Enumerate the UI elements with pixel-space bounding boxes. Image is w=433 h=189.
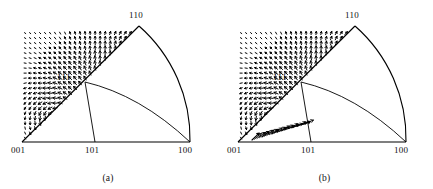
panel-b-label-101: 101: [301, 145, 315, 155]
panel-a-internal-lines: [85, 82, 190, 142]
panel-b-plot: [216, 0, 433, 189]
panel-a-label-110: 110: [129, 10, 143, 20]
panel-a-caption: (a): [0, 173, 216, 183]
panel-a-label-001: 001: [11, 145, 25, 155]
figure-container: 110 111 001 101 100 (a): [0, 0, 433, 189]
panel-b-label-111: 111: [273, 72, 287, 82]
panel-a-label-111: 111: [57, 72, 71, 82]
panel-a-arrow-field: [24, 32, 131, 139]
panel-b-label-100: 100: [394, 145, 408, 155]
panel-a-plot: [0, 0, 216, 189]
panel-b-long-arrows: [252, 120, 313, 140]
panel-a-label-101: 101: [85, 145, 99, 155]
panel-b-arrow-field: [240, 32, 347, 139]
panel-a-label-100: 100: [178, 145, 192, 155]
panel-b-label-001: 001: [227, 145, 241, 155]
panel-a: 110 111 001 101 100 (a): [0, 0, 216, 189]
panel-b: 110 111 001 101 100 (b): [216, 0, 433, 189]
panel-b-caption: (b): [216, 173, 433, 183]
panel-b-label-110: 110: [345, 10, 359, 20]
panel-b-internal-lines: [301, 82, 406, 142]
